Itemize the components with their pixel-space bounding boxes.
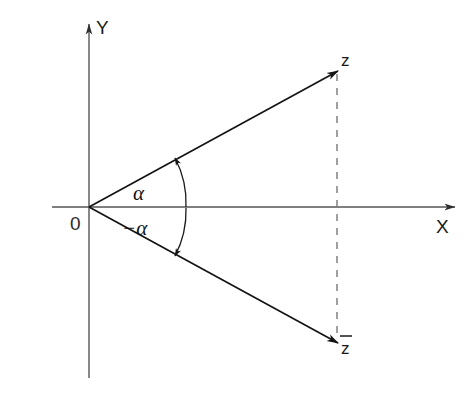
angle-arc-minus-alpha: −α — [122, 208, 186, 256]
vector-z-conjugate-label: z — [341, 339, 350, 358]
vector-z-label: z — [341, 51, 350, 70]
x-axis-label: X — [436, 216, 449, 237]
y-axis-label: Y — [96, 17, 109, 38]
figure-container: X Y 0 z z α −α — [0, 0, 469, 393]
angle-label-minus-alpha: −α — [122, 216, 148, 240]
x-axis: X — [52, 207, 455, 237]
vector-z: z — [89, 51, 350, 207]
complex-plane-diagram: X Y 0 z z α −α — [0, 0, 469, 393]
origin-label: 0 — [70, 213, 81, 234]
angle-arc-alpha-path — [175, 158, 186, 207]
angle-arc-alpha: α — [133, 158, 186, 207]
angle-label-alpha: α — [133, 181, 145, 205]
angle-arc-minus-alpha-path — [175, 208, 186, 256]
vector-z-line — [89, 71, 338, 207]
